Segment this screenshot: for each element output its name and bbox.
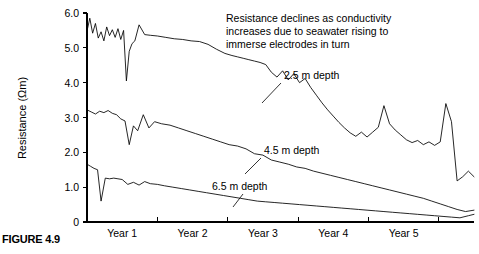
series-label-4-5m: 4.5 m depth xyxy=(264,144,320,156)
leader-line-2-5m xyxy=(262,83,281,103)
resistance-line-chart: 01.02.03.04.05.06.0 Year 1Year 2Year 3Ye… xyxy=(0,0,479,254)
y-tick-label: 3.0 xyxy=(64,112,79,124)
leader-line-4-5m xyxy=(245,158,261,174)
x-tick-label: Year 2 xyxy=(178,227,208,239)
figure-caption: FIGURE 4.9 xyxy=(2,233,60,245)
series-label-6-5m: 6.5 m depth xyxy=(212,180,268,192)
y-axis-tick-marks xyxy=(83,13,87,222)
y-tick-label: 2.0 xyxy=(64,146,79,158)
annotation-line-3: immerse electrodes in turn xyxy=(226,38,350,50)
x-axis-tick-labels: Year 1Year 2Year 3Year 4Year 5 xyxy=(107,227,419,239)
x-tick-label: Year 4 xyxy=(318,227,348,239)
figure-container: 01.02.03.04.05.06.0 Year 1Year 2Year 3Ye… xyxy=(0,0,479,254)
y-tick-label: 1.0 xyxy=(64,181,79,193)
y-axis-title: Resistance (Ωm) xyxy=(16,77,28,159)
x-tick-label: Year 1 xyxy=(107,227,137,239)
y-tick-label: 6.0 xyxy=(64,7,79,19)
y-tick-label: 4.0 xyxy=(64,77,79,89)
leader-line-6-5m xyxy=(233,194,243,207)
x-tick-label: Year 5 xyxy=(389,227,419,239)
series-line-4-5m xyxy=(87,110,474,212)
y-tick-label: 0 xyxy=(73,216,79,228)
series-labels-group: 2.5 m depth 4.5 m depth 6.5 m depth xyxy=(212,69,340,207)
x-axis-tick-marks xyxy=(157,217,438,222)
series-line-6-5m xyxy=(87,164,474,218)
y-axis-tick-labels: 01.02.03.04.05.06.0 xyxy=(64,7,79,228)
annotation-line-1: Resistance declines as conductivity xyxy=(226,12,392,24)
x-tick-label: Year 3 xyxy=(248,227,278,239)
annotation-line-2: increases due to seawater rising to xyxy=(226,25,388,37)
series-label-2-5m: 2.5 m depth xyxy=(284,69,340,81)
y-tick-label: 5.0 xyxy=(64,42,79,54)
chart-annotation: Resistance declines as conductivity incr… xyxy=(226,12,392,50)
